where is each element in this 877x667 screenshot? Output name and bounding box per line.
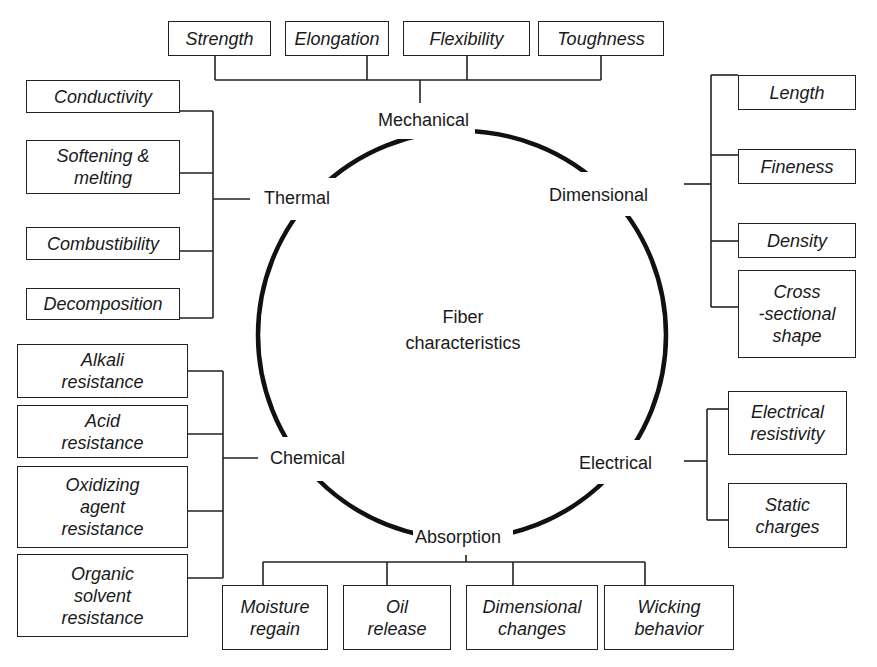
box-density: Density xyxy=(738,223,856,258)
category-chemical: Chemical xyxy=(270,447,345,469)
box-conductivity: Conductivity xyxy=(26,80,180,113)
center-label-line2: characteristics xyxy=(363,330,563,356)
box-electrical-resistivity: Electrical resistivity xyxy=(728,391,847,455)
box-static-charges: Static charges xyxy=(728,483,847,548)
box-strength: Strength xyxy=(168,21,271,56)
box-length: Length xyxy=(738,75,856,110)
box-dimensional-changes: Dimensional changes xyxy=(466,585,598,650)
box-moisture-regain: Moisture regain xyxy=(222,585,328,650)
center-label: Fiber characteristics xyxy=(363,304,563,356)
box-fineness: Fineness xyxy=(738,149,856,184)
category-absorption: Absorption xyxy=(415,526,501,548)
category-mechanical: Mechanical xyxy=(378,109,469,131)
box-flexibility: Flexibility xyxy=(403,21,530,56)
category-electrical: Electrical xyxy=(579,452,652,474)
box-combustibility: Combustibility xyxy=(26,227,180,260)
box-oxidizing-agent-resistance: Oxidizing agent resistance xyxy=(17,466,188,548)
box-cross-sectional-shape: Cross -sectional shape xyxy=(738,270,856,358)
box-wicking-behavior: Wicking behavior xyxy=(604,585,734,650)
box-acid-resistance: Acid resistance xyxy=(17,405,188,458)
box-decomposition: Decomposition xyxy=(26,288,180,320)
box-oil-release: Oil release xyxy=(343,585,451,650)
box-organic-solvent-resistance: Organic solvent resistance xyxy=(17,554,188,637)
box-alkali-resistance: Alkali resistance xyxy=(17,344,188,398)
box-elongation: Elongation xyxy=(285,21,389,56)
category-dimensional: Dimensional xyxy=(549,184,648,206)
category-thermal: Thermal xyxy=(264,187,330,209)
box-softening-melting: Softening & melting xyxy=(26,140,180,194)
fiber-characteristics-diagram: Fiber characteristics Mechanical Thermal… xyxy=(0,0,877,667)
center-label-line1: Fiber xyxy=(363,304,563,330)
box-toughness: Toughness xyxy=(538,21,664,56)
